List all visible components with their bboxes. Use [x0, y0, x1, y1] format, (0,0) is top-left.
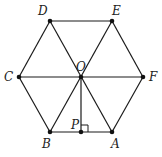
hexagon-diagram: D E C O F B P A: [0, 0, 162, 157]
segment-BC: [19, 77, 50, 132]
segment-CD: [19, 21, 50, 77]
label-P: P: [70, 118, 80, 132]
point-C: [17, 75, 22, 80]
point-D: [48, 19, 53, 24]
label-B: B: [41, 137, 51, 151]
point-F: [141, 75, 146, 80]
point-P: [79, 130, 84, 135]
label-C: C: [4, 70, 13, 84]
point-E: [110, 19, 115, 24]
label-A: A: [110, 137, 120, 151]
label-F: F: [148, 70, 158, 84]
point-B: [48, 130, 53, 135]
point-A: [110, 130, 115, 135]
segment-FA: [112, 77, 143, 132]
label-O: O: [76, 60, 86, 74]
label-D: D: [37, 4, 48, 18]
point-O: [79, 75, 84, 80]
segment-EF: [112, 21, 143, 77]
label-E: E: [111, 4, 121, 18]
